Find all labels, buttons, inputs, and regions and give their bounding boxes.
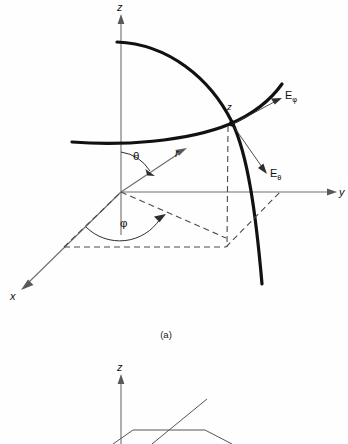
y-axis-arrowhead: [327, 189, 337, 196]
phi-angle: φ: [86, 214, 166, 241]
vertical-drop-line: [227, 126, 228, 247]
panel-b-plane: [113, 399, 232, 444]
E-theta-vector: Eθ: [234, 127, 282, 182]
constant-theta-arc: [72, 84, 282, 143]
E-phi-arrowhead: [271, 98, 282, 104]
panel-a-caption: (a): [160, 329, 172, 340]
meridian-arc: [117, 42, 262, 284]
z-axis: z: [116, 1, 124, 235]
figure-container: z y x z: [0, 0, 348, 444]
radial-vector-line: [121, 152, 181, 192]
x-axis-arrowhead: [21, 280, 33, 290]
panel-b-z-axis-label: z: [116, 361, 123, 373]
E-theta-subscript: θ: [277, 173, 281, 182]
panel-b-plane-edge-right: [205, 430, 232, 444]
E-theta-arrowhead: [258, 164, 267, 174]
phi-arc-arrowhead: [154, 214, 166, 222]
E-phi-subscript: φ: [292, 95, 297, 104]
x-axis-label: x: [9, 290, 16, 302]
radial-vector: r: [121, 147, 187, 192]
E-phi-vector: Eφ: [233, 89, 297, 124]
y-axis-label: y: [338, 186, 346, 198]
panel-a: z y x z: [9, 1, 346, 340]
field-point-label: z: [226, 101, 232, 112]
E-phi-base: E: [285, 89, 292, 101]
panel-b-z-axis-arrowhead: [118, 374, 125, 384]
panel-b-diagonal-segment: [152, 399, 207, 444]
panel-b: z: [113, 361, 232, 444]
phi-label: φ: [120, 217, 127, 229]
panel-b-plane-edge-left: [113, 430, 133, 444]
xy-projection-parallelogram: [64, 192, 280, 247]
E-theta-arrow-line: [234, 127, 262, 167]
E-phi-arrow-line: [233, 101, 276, 124]
spherical-coordinates-figure: z y x z: [0, 0, 348, 444]
E-phi-label: Eφ: [285, 89, 297, 104]
radial-projection-line: [121, 192, 226, 238]
y-axis: y: [121, 186, 346, 198]
E-theta-base: E: [270, 167, 277, 179]
theta-label: θ: [133, 150, 139, 162]
panel-b-z-axis: z: [116, 361, 124, 444]
z-axis-label: z: [116, 1, 123, 13]
E-theta-label: Eθ: [270, 167, 282, 182]
z-axis-arrowhead: [118, 14, 125, 24]
